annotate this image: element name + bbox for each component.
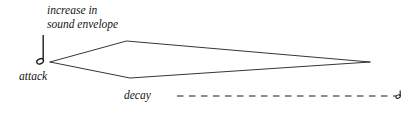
start-note-icon (36, 35, 44, 65)
envelope-upper-line (50, 41, 370, 62)
end-note-icon (395, 91, 400, 99)
envelope-lower-line (50, 62, 370, 78)
note-head-icon (36, 58, 44, 65)
increase-label-line1: increase in (47, 4, 97, 16)
attack-label: attack (19, 70, 47, 84)
increase-label: increase insound envelope (47, 4, 118, 31)
end-note-head-icon (395, 94, 400, 99)
decay-label: decay (124, 89, 151, 103)
figure-canvas: increase insound envelope attack decay (0, 0, 420, 120)
increase-label-line2: sound envelope (47, 18, 118, 30)
